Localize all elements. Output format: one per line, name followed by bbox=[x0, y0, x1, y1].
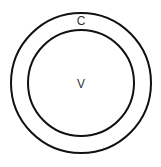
nested-circles-diagram: C V bbox=[0, 0, 161, 167]
inner-circle-label: V bbox=[77, 77, 85, 91]
outer-circle-label: C bbox=[77, 14, 86, 28]
